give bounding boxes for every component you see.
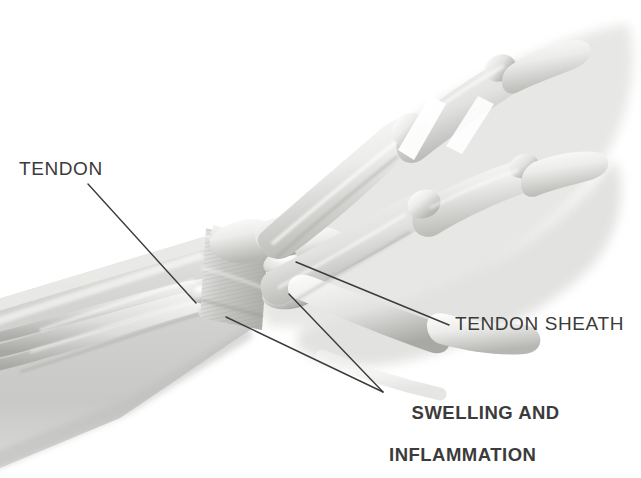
label-tendon: TENDON (19, 158, 103, 180)
label-swelling-line1: SWELLING AND (412, 402, 560, 423)
illustration-canvas: TENDON TENDON SHEATH SWELLING AND INFLAM… (0, 0, 641, 478)
label-tendon-sheath: TENDON SHEATH (455, 313, 624, 335)
label-swelling-line2: INFLAMMATION (389, 444, 560, 465)
label-swelling-inflammation: SWELLING AND INFLAMMATION (389, 381, 560, 478)
